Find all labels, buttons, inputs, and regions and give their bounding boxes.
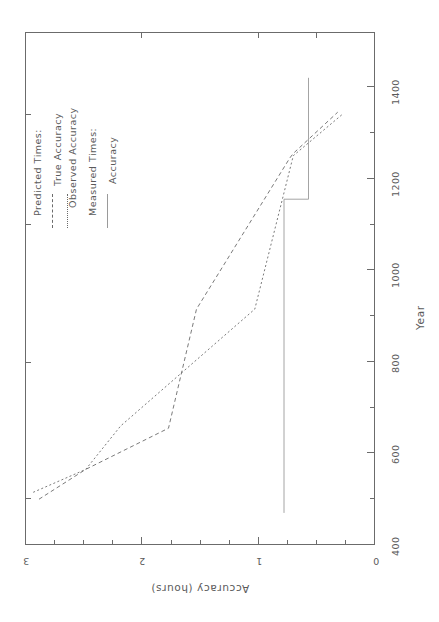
x-axis-title: Year — [414, 305, 426, 330]
legend-label-true-accuracy: True Accuracy — [52, 113, 63, 186]
legend-sample-measured-accuracy — [107, 194, 108, 228]
xtick-label-400: 400 — [390, 537, 401, 556]
xtick-label-1000: 1000 — [390, 262, 401, 288]
legend-label-measured-accuracy: Accuracy — [107, 137, 118, 184]
legend-group-predicted-times: Predicted Times: — [32, 129, 43, 216]
legend-sample-observed-accuracy — [67, 194, 68, 228]
ytick-label-1: 1 — [253, 556, 265, 567]
ytick-label-0: 0 — [370, 556, 382, 567]
xtick-label-1400: 1400 — [390, 79, 401, 105]
xtick-label-600: 600 — [390, 445, 401, 464]
xtick-label-1200: 1200 — [390, 171, 401, 197]
legend-label-observed-accuracy: Observed Accuracy — [67, 107, 78, 208]
chart-legend: Predicted Times: True Accuracy Observed … — [30, 96, 150, 286]
y-axis-title: Accuracy (hours) — [140, 583, 260, 595]
chart-figure: 400 600 800 1000 1200 1400 Year 0 1 2 3 … — [0, 0, 439, 622]
legend-sample-true-accuracy — [52, 194, 53, 228]
xtick-label-800: 800 — [390, 354, 401, 373]
legend-group-measured-times: Measured Times: — [87, 128, 98, 216]
ytick-label-2: 2 — [136, 556, 148, 567]
ytick-label-3: 3 — [20, 556, 32, 567]
